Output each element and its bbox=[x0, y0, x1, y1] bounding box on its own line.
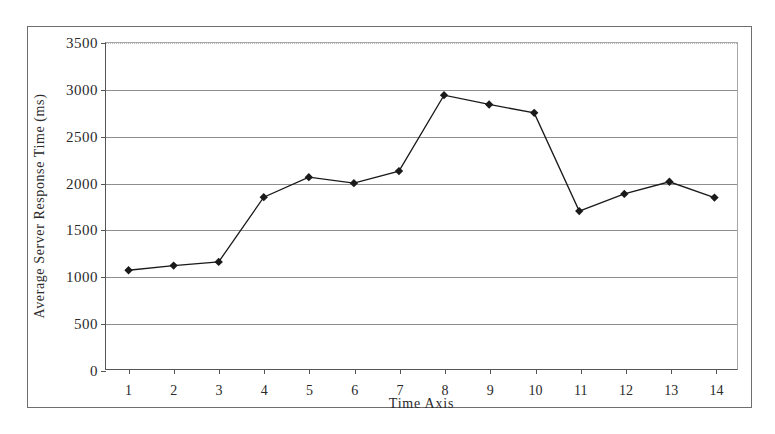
x-axis-title: Time Axis bbox=[105, 396, 738, 412]
x-tick-mark bbox=[536, 369, 537, 374]
data-point-marker bbox=[395, 167, 403, 175]
y-tick-label: 2000 bbox=[66, 175, 98, 192]
y-axis-title: Average Server Response Time (ms) bbox=[30, 42, 50, 370]
x-tick-mark bbox=[671, 369, 672, 374]
x-axis-title-text: Time Axis bbox=[389, 396, 454, 411]
y-tick-label: 3000 bbox=[66, 81, 98, 98]
x-tick-mark bbox=[400, 369, 401, 374]
x-tick-mark bbox=[716, 369, 717, 374]
y-tick-label: 1000 bbox=[66, 269, 98, 286]
y-tick-mark bbox=[101, 371, 106, 372]
data-point-marker bbox=[665, 178, 673, 186]
x-tick-mark bbox=[129, 369, 130, 374]
plot-area: 0500100015002000250030003500 12345678910… bbox=[105, 42, 738, 370]
x-tick-mark bbox=[581, 369, 582, 374]
series-line-chart bbox=[106, 43, 737, 369]
data-point-marker bbox=[530, 109, 538, 117]
x-tick-mark bbox=[264, 369, 265, 374]
data-point-marker bbox=[350, 179, 358, 187]
x-tick-mark bbox=[174, 369, 175, 374]
x-tick-mark bbox=[626, 369, 627, 374]
data-point-marker bbox=[260, 193, 268, 201]
y-tick-label: 3500 bbox=[66, 35, 98, 52]
y-tick-label: 2500 bbox=[66, 128, 98, 145]
x-tick-mark bbox=[309, 369, 310, 374]
data-point-marker bbox=[124, 266, 132, 274]
data-point-marker bbox=[710, 193, 718, 201]
y-tick-label: 500 bbox=[74, 316, 98, 333]
series-line bbox=[129, 95, 715, 270]
x-tick-mark bbox=[490, 369, 491, 374]
x-tick-mark bbox=[219, 369, 220, 374]
y-tick-label: 0 bbox=[90, 363, 98, 380]
data-point-marker bbox=[485, 100, 493, 108]
y-axis-title-text: Average Server Response Time (ms) bbox=[32, 94, 48, 319]
data-point-marker bbox=[620, 190, 628, 198]
data-point-marker bbox=[305, 173, 313, 181]
chart-figure: Average Server Response Time (ms) 050010… bbox=[0, 0, 775, 434]
x-tick-mark bbox=[445, 369, 446, 374]
data-point-marker bbox=[440, 91, 448, 99]
y-tick-label: 1500 bbox=[66, 222, 98, 239]
data-point-marker bbox=[214, 258, 222, 266]
data-point-marker bbox=[575, 207, 583, 215]
data-point-marker bbox=[169, 261, 177, 269]
x-tick-mark bbox=[355, 369, 356, 374]
